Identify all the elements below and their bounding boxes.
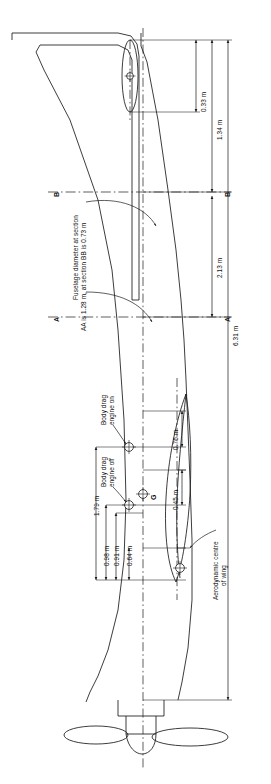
callout-aerodynamic-centre-line2: of wing — [220, 565, 228, 586]
dimension-label-1-34: 1.34 m — [216, 120, 224, 140]
leader-to-section-B — [86, 200, 156, 226]
fuselage-diameter-note-line2: AA is 1.28 m, at section BB is 0.73 m — [80, 223, 88, 331]
aircraft-drawing-svg — [0, 0, 271, 784]
callout-aerodynamic-centre-line1: Aerodynamic centre — [212, 541, 220, 600]
propeller-blade-left — [64, 726, 128, 744]
section-label-B-left: B — [53, 192, 61, 197]
dimension-label-6-31: 6.31 m — [232, 326, 240, 346]
engine-cowl — [118, 700, 164, 716]
callout-body-drag-engine-on-line2: engine on — [108, 396, 116, 425]
extension-lines — [96, 40, 232, 700]
airframe-outline — [12, 33, 228, 754]
dimension-label-0-91: 0.91 m — [113, 546, 121, 566]
centre-of-gravity-label: G — [150, 494, 158, 500]
leader-body-drag-engine-off — [113, 487, 126, 502]
technical-drawing-canvas: 0.33 m 1.34 m 2.13 m 6.31 m 1.79 m 0.98 … — [0, 0, 271, 784]
spinner-dome — [126, 734, 156, 754]
section-label-B-right: B — [224, 192, 232, 197]
fuselage-diameter-note-line1: Fuselage diameter at section — [72, 215, 80, 300]
spinner-base — [126, 716, 156, 734]
dimension-label-0-98: 0.98 m — [103, 546, 111, 566]
section-label-A-right: A — [224, 317, 232, 322]
wing-inner-chord-line — [177, 394, 186, 578]
dimension-arrows — [96, 40, 228, 700]
centre-lines — [130, 28, 177, 768]
callout-body-drag-engine-off-line1: Body drag — [100, 457, 108, 487]
dimension-label-1-79: 1.79 m — [93, 496, 101, 516]
dimension-label-0-45: 0.45 m — [172, 490, 180, 510]
dimension-label-0-33: 0.33 m — [200, 92, 208, 112]
propeller-blade-right — [152, 728, 228, 746]
section-label-A-left: A — [53, 317, 61, 322]
callout-body-drag-engine-off-line2: engine off — [108, 458, 116, 487]
fuselage-right-lower — [178, 340, 192, 700]
callout-body-drag-engine-on-line1: Body drag — [100, 395, 108, 425]
dimension-label-2-13: 2.13 m — [216, 258, 224, 278]
fuselage-right-upper — [141, 33, 184, 340]
leader-to-section-A — [86, 292, 152, 322]
dimension-label-0-64: 0.64 m — [126, 546, 134, 566]
dimension-label-0-76: 0.76 m — [172, 430, 180, 450]
